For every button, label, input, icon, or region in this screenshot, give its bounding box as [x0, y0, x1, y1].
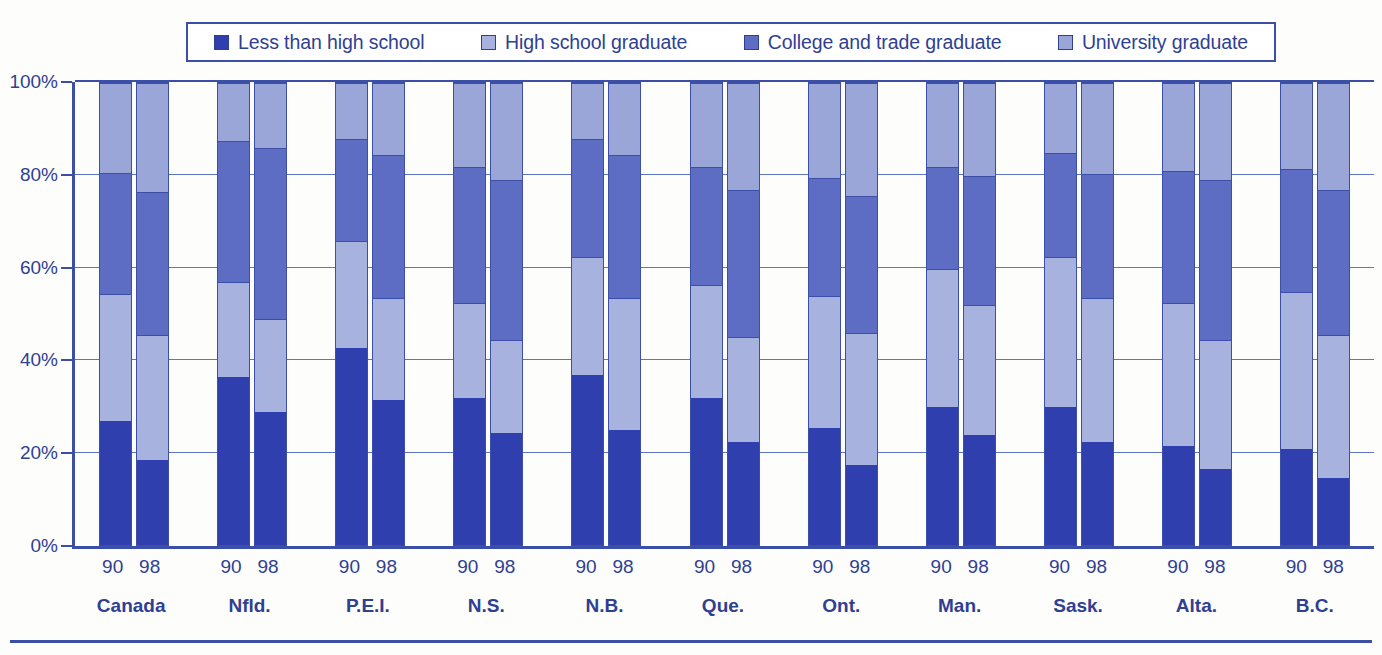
bar-bc-98[interactable]: [1317, 82, 1350, 546]
x-axis-category-label: N.B.: [545, 595, 663, 617]
x-axis-year-label: 98: [962, 556, 995, 578]
bar-segment: [1318, 190, 1349, 336]
bar-segment: [255, 412, 286, 545]
bar-segment: [255, 83, 286, 148]
bar-ont-98[interactable]: [845, 82, 878, 546]
bar-alta-90[interactable]: [1162, 82, 1195, 546]
bar-ns-90[interactable]: [453, 82, 486, 546]
bar-man-90[interactable]: [926, 82, 959, 546]
bar-segment: [1200, 340, 1231, 470]
bar-bc-90[interactable]: [1280, 82, 1313, 546]
bar-segment: [846, 333, 877, 465]
bar-segment: [100, 173, 131, 293]
x-axis-year-label: 90: [1043, 556, 1076, 578]
bar-segment: [373, 298, 404, 400]
bar-segment: [964, 305, 995, 435]
bar-segment: [137, 460, 168, 545]
bar-man-98[interactable]: [963, 82, 996, 546]
bar-alta-98[interactable]: [1199, 82, 1232, 546]
bar-segment: [572, 375, 603, 545]
legend-item-label: Less than high school: [238, 31, 425, 54]
bar-segment: [927, 83, 958, 167]
bar-segment: [1163, 303, 1194, 446]
bar-group-nb: [547, 82, 665, 546]
legend-item-label: University graduate: [1082, 31, 1248, 54]
bar-segment: [100, 294, 131, 421]
bar-group-ont: [784, 82, 902, 546]
bar-nfld-98[interactable]: [254, 82, 287, 546]
legend-swatch-icon: [1058, 35, 1073, 50]
bar-que-98[interactable]: [727, 82, 760, 546]
bar-segment: [927, 167, 958, 269]
x-axis-category-label: N.S.: [427, 595, 545, 617]
bar-segment: [1045, 83, 1076, 153]
bar-nb-90[interactable]: [571, 82, 604, 546]
bar-segment: [728, 337, 759, 441]
bar-nfld-90[interactable]: [217, 82, 250, 546]
x-axis-year-label: 98: [370, 556, 403, 578]
bar-segment: [609, 298, 640, 430]
x-axis-year-label: 90: [96, 556, 129, 578]
bar-canada-98[interactable]: [136, 82, 169, 546]
bar-segment: [609, 430, 640, 545]
bar-segment: [218, 83, 249, 141]
bar-segment: [137, 83, 168, 192]
x-axis-year-label: 90: [806, 556, 839, 578]
bar-segment: [454, 398, 485, 545]
x-axis-year-label: 98: [1317, 556, 1350, 578]
bar-segment: [373, 83, 404, 155]
x-axis-category-label: Ont.: [782, 595, 900, 617]
y-axis-tick-label: 40%: [20, 349, 58, 371]
bar-segment: [491, 83, 522, 180]
bar-pei-98[interactable]: [372, 82, 405, 546]
bar-segment: [336, 139, 367, 241]
x-axis-group-man: 9098Man.: [901, 556, 1019, 636]
bar-group-canada: [75, 82, 193, 546]
bar-ont-90[interactable]: [808, 82, 841, 546]
bar-nb-98[interactable]: [608, 82, 641, 546]
bar-segment: [691, 167, 722, 285]
y-axis-tick-label: 80%: [20, 164, 58, 186]
bar-segment: [454, 83, 485, 167]
x-axis-year-label: 98: [252, 556, 285, 578]
bar-group-ns: [429, 82, 547, 546]
y-axis-tick-mark: [61, 81, 72, 83]
bar-ns-98[interactable]: [490, 82, 523, 546]
bar-segment: [1200, 469, 1231, 545]
x-axis-group-nb: 9098N.B.: [545, 556, 663, 636]
bar-segment: [846, 196, 877, 332]
bar-segment: [1200, 83, 1231, 180]
bar-sask-98[interactable]: [1081, 82, 1114, 546]
bar-segment: [691, 285, 722, 398]
y-axis-tick-mark: [61, 174, 72, 176]
bar-pei-90[interactable]: [335, 82, 368, 546]
x-axis-group-nfld: 9098Nfld.: [190, 556, 308, 636]
y-axis-tick-mark: [61, 267, 72, 269]
bottom-divider: [10, 640, 1372, 643]
bar-segment: [728, 83, 759, 190]
bar-segment: [809, 296, 840, 428]
bar-segment: [218, 141, 249, 282]
bar-segment: [1163, 446, 1194, 545]
bar-segment: [1281, 169, 1312, 292]
bar-segment: [1082, 298, 1113, 441]
y-axis-tick-mark: [61, 452, 72, 454]
bar-group-bc: [1256, 82, 1374, 546]
bar-group-pei: [311, 82, 429, 546]
bar-segment: [927, 407, 958, 545]
bar-segment: [255, 319, 286, 412]
bar-sask-90[interactable]: [1044, 82, 1077, 546]
x-axis-year-label: 98: [488, 556, 521, 578]
bar-segment: [1163, 171, 1194, 303]
bar-que-90[interactable]: [690, 82, 723, 546]
bar-segment: [691, 398, 722, 545]
x-axis-year-label: 90: [570, 556, 603, 578]
bar-segment: [609, 155, 640, 298]
y-axis-tick-label: 0%: [31, 535, 58, 557]
bar-segment: [491, 180, 522, 339]
x-axis-category-label: Alta.: [1137, 595, 1255, 617]
bar-segment: [572, 83, 603, 139]
x-axis-category-label: Man.: [901, 595, 1019, 617]
x-axis-category-label: Sask.: [1019, 595, 1137, 617]
bar-canada-90[interactable]: [99, 82, 132, 546]
